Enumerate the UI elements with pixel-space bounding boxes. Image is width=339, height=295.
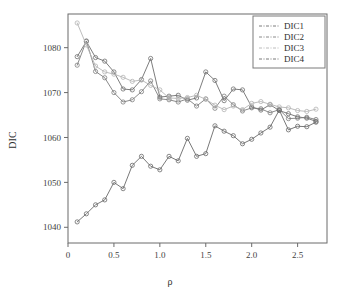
y-tick-label: 1050 <box>43 178 62 188</box>
chart-legend: DIC1DIC2DIC3DIC4 <box>253 16 325 68</box>
x-tick-label: 2.0 <box>246 250 258 260</box>
dic-vs-rho-line-chart: 00.51.01.52.02.5 10401050106010701080 ρ … <box>0 0 339 295</box>
legend-label-dic4: DIC4 <box>284 54 304 64</box>
chart-figure: 00.51.01.52.02.5 10401050106010701080 ρ … <box>0 0 339 295</box>
x-tick-label: 0 <box>66 250 71 260</box>
x-tick-label: 2.5 <box>292 250 304 260</box>
x-tick-label: 1.0 <box>154 250 166 260</box>
legend-label-dic2: DIC2 <box>284 32 304 42</box>
y-tick-label: 1060 <box>43 133 62 143</box>
legend-label-dic1: DIC1 <box>284 21 304 31</box>
legend-label-dic3: DIC3 <box>284 43 304 53</box>
y-axis-title: DIC <box>7 131 18 149</box>
y-tick-label: 1070 <box>43 88 62 98</box>
x-axis-title: ρ <box>168 276 173 287</box>
x-tick-label: 0.5 <box>108 250 120 260</box>
y-tick-label: 1040 <box>43 222 62 232</box>
y-tick-label: 1080 <box>43 43 62 53</box>
x-tick-label: 1.5 <box>200 250 212 260</box>
